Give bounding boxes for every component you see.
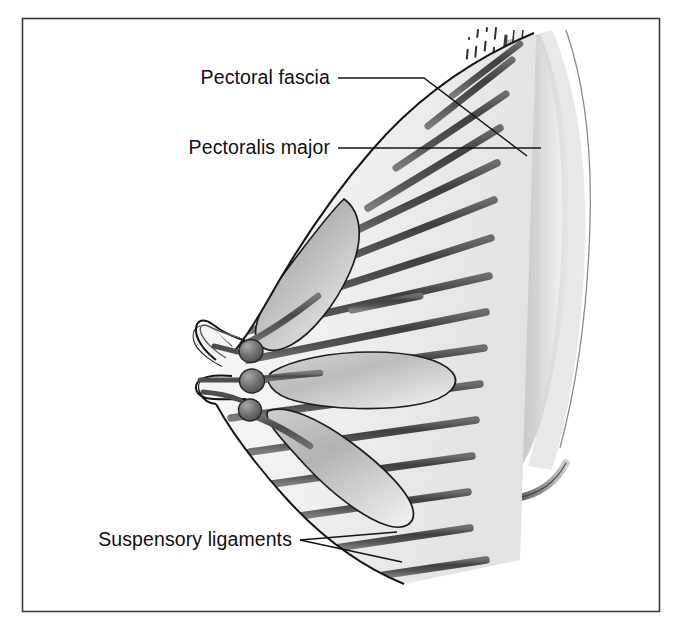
- lactiferous-sinus-lower: [239, 399, 262, 421]
- lactiferous-sinus-upper: [239, 340, 263, 363]
- figure-root: Pectoral fascia Pectoralis major Suspens…: [0, 0, 678, 628]
- label-pectoral-fascia: Pectoral fascia: [201, 66, 330, 88]
- label-suspensory-ligaments: Suspensory ligaments: [98, 528, 292, 550]
- lactiferous-sinus-middle: [240, 369, 265, 393]
- label-pectoralis-major: Pectoralis major: [189, 136, 331, 158]
- anatomy-diagram: Pectoral fascia Pectoralis major Suspens…: [0, 0, 678, 628]
